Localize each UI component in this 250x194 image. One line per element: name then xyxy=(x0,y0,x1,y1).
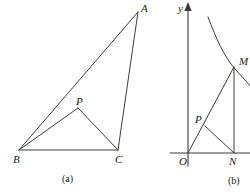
origin-label: O xyxy=(179,156,187,167)
point-label-p-panel-b: P xyxy=(195,114,202,125)
panel-a-caption: (a) xyxy=(62,174,73,184)
panel-b-caption: (b) xyxy=(228,176,240,186)
side-AB xyxy=(19,12,138,150)
point-label-p-panel-a: P xyxy=(76,96,83,107)
vertex-label-b: B xyxy=(13,154,20,165)
y-axis-arrowhead xyxy=(184,2,191,11)
panel-a-geometry xyxy=(19,12,138,150)
y-axis-label: y xyxy=(178,3,183,14)
side-CA xyxy=(118,12,138,150)
vertex-label-a: A xyxy=(141,3,148,14)
cevian-BP xyxy=(19,108,78,150)
ray-O-to-M xyxy=(188,67,234,153)
cevian-PC xyxy=(78,108,118,150)
point-label-m: M xyxy=(239,56,248,67)
point-label-n: N xyxy=(229,156,236,167)
segment-P-to-N xyxy=(205,126,234,153)
vertex-label-c: C xyxy=(115,154,122,165)
panel-b-geometry xyxy=(170,2,250,166)
figure-canvas xyxy=(0,0,250,194)
geometry-figure: A B C P (a) y O M N P (b) xyxy=(0,0,250,194)
